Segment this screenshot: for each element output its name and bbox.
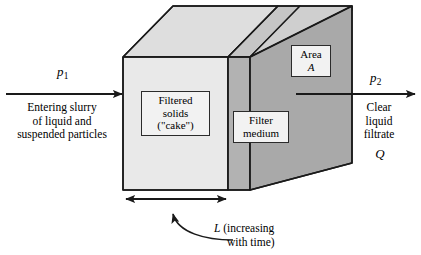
outlet-pressure-label: p2 [370,70,381,88]
inlet-description-line-2: of liquid and [17,115,107,129]
area-line-1: Area [296,48,326,61]
filtered-solids-line-3: ("cake") [146,119,205,132]
outlet-flowrate-symbol: Q [375,146,384,161]
outlet-description-line-2: liquid [364,115,395,129]
filter-medium-callout: Filter medium [233,111,289,143]
inlet-description: Entering slurry of liquid and suspended … [17,101,107,142]
area-symbol: A [296,61,326,74]
outlet-description-line-3: filtrate [364,128,395,142]
inlet-description-line-1: Entering slurry [17,101,107,115]
filter-medium-line-1: Filter [238,114,284,127]
filtration-diagram: Filtered solids ("cake") Filter medium A… [0,0,421,255]
inlet-pressure-label: p1 [57,64,68,82]
inlet-description-line-3: suspended particles [17,128,107,142]
outlet-pressure-symbol: p [370,70,377,85]
cake-thickness-note-1: (increasing [223,222,274,234]
cake-thickness-line-1: L (increasing [214,222,275,236]
outlet-description: Clear liquid filtrate [364,101,395,142]
area-callout: Area A [291,45,331,77]
outlet-description-line-1: Clear [364,101,395,115]
filter-medium-line-2: medium [238,127,284,140]
filtered-solids-line-1: Filtered [146,94,205,107]
cake-thickness-note-2: with time) [214,236,275,250]
filtered-solids-callout: Filtered solids ("cake") [141,91,210,136]
inlet-pressure-subscript: 1 [64,71,69,81]
outlet-pressure-subscript: 2 [377,77,382,87]
inlet-pressure-symbol: p [57,64,64,79]
cake-thickness-symbol: L [214,222,220,234]
filtered-solids-line-2: solids [146,107,205,120]
cake-thickness-label: L (increasing with time) [214,222,275,249]
